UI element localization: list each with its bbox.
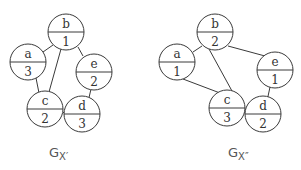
- node-value: 1: [271, 73, 279, 87]
- node-d: d 3: [64, 96, 100, 132]
- node-value: 3: [223, 111, 231, 125]
- node-label: a: [24, 47, 31, 61]
- node-e: e 1: [257, 52, 293, 88]
- node-value: 2: [90, 75, 98, 89]
- node-label: a: [173, 47, 180, 61]
- node-a: a 1: [159, 44, 195, 80]
- graph-caption: GX′: [49, 145, 69, 162]
- node-label: b: [62, 17, 70, 31]
- edge-a-b: [43, 45, 53, 52]
- node-b: b 1: [48, 14, 84, 50]
- node-c: c 3: [209, 90, 245, 126]
- node-label: b: [211, 17, 219, 31]
- node-value: 3: [78, 117, 86, 131]
- edge-b-c: [49, 49, 61, 92]
- edge-b-e: [228, 46, 265, 56]
- node-value: 2: [211, 35, 219, 49]
- node-label: e: [90, 57, 97, 71]
- node-label: c: [42, 94, 49, 108]
- node-value: 1: [173, 65, 181, 79]
- edge-a-c: [183, 79, 220, 93]
- node-b: b 2: [197, 14, 233, 50]
- node-label: d: [78, 99, 86, 113]
- node-a: a 3: [10, 44, 46, 80]
- node-e: e 2: [76, 54, 112, 90]
- node-label: e: [271, 55, 278, 69]
- graph-caption: GX″: [228, 145, 249, 162]
- edge-a-c: [36, 78, 39, 93]
- node-value: 3: [24, 65, 32, 79]
- node-value: 2: [41, 112, 49, 126]
- graph-x-prime: b 1 a 3 e 2 c 2 d 3: [10, 14, 112, 162]
- node-value: 2: [259, 117, 267, 131]
- graph-x-double-prime: b 2 a 1 e 1 c 3 d 2: [159, 14, 293, 162]
- edge-b-e: [78, 47, 83, 56]
- node-value: 1: [62, 35, 70, 49]
- edge-b-c: [209, 49, 232, 91]
- node-label: d: [259, 99, 267, 113]
- node-label: c: [224, 93, 231, 107]
- diagram-canvas: b 1 a 3 e 2 c 2 d 3: [0, 0, 301, 170]
- edge-a-b: [193, 46, 202, 52]
- node-c: c 2: [27, 91, 63, 127]
- node-d: d 2: [245, 96, 281, 132]
